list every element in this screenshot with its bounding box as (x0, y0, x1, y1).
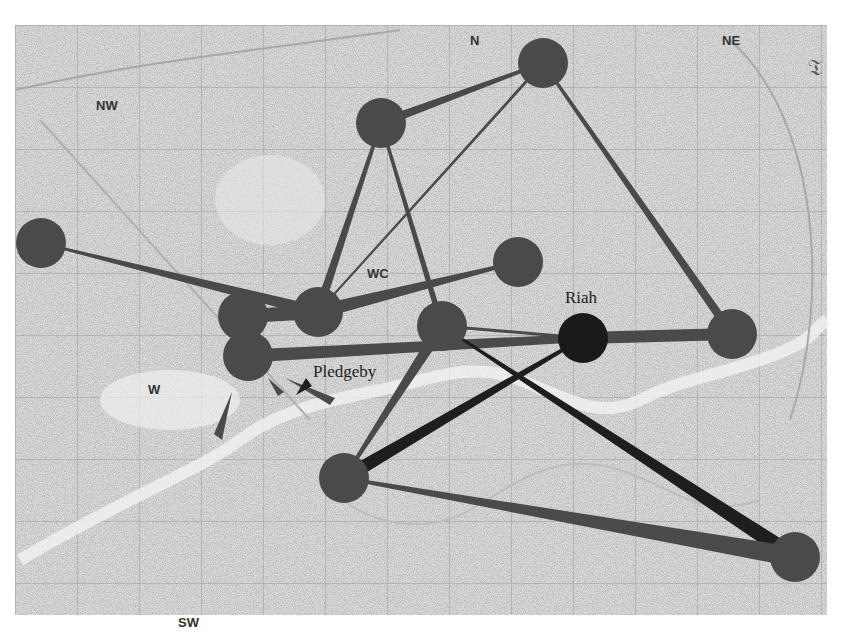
node-n12 (770, 532, 820, 582)
node-n1 (16, 218, 66, 268)
node-riah (558, 313, 608, 363)
node-n2 (356, 98, 406, 148)
district-label-ne: NE (722, 33, 740, 48)
node-label-riah: Riah (565, 288, 598, 307)
district-label-wc: WC (367, 266, 389, 281)
node-n5 (293, 287, 343, 337)
district-label-n: N (470, 33, 479, 48)
node-n3 (518, 38, 568, 88)
node-n11 (319, 453, 369, 503)
district-label-sw: SW (178, 615, 200, 630)
hyde-park (100, 370, 240, 430)
figure: NW N NE W WC SW Pledgeby Riah 𝔗 (0, 0, 841, 641)
district-label-w: W (148, 382, 161, 397)
network-overlay: NW N NE W WC SW Pledgeby Riah (0, 0, 841, 641)
district-label-nw: NW (96, 98, 118, 113)
regents-park (215, 155, 325, 245)
node-pledgeby (223, 331, 273, 381)
node-label-pledgeby: Pledgeby (313, 362, 377, 381)
node-n8 (417, 301, 467, 351)
node-n10 (707, 309, 757, 359)
node-n6 (493, 237, 543, 287)
corner-glyph: 𝔗 (808, 55, 823, 81)
